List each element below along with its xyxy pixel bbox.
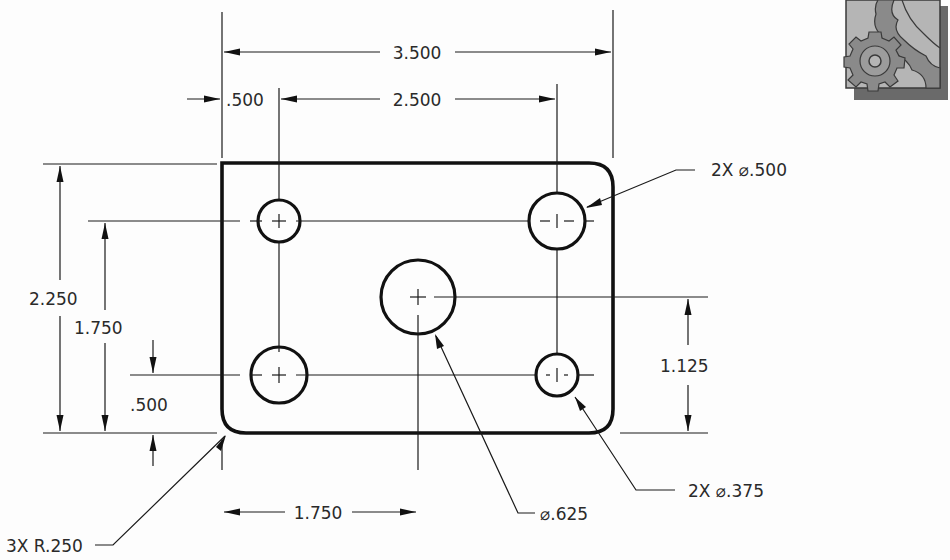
leader-lines	[95, 170, 695, 545]
gear-logo-icon	[826, 0, 950, 102]
centerlines	[88, 84, 708, 470]
callout-small-holes: 2X ⌀.375	[688, 481, 764, 501]
part-drawing-svg: 3.500 2.500 .500 2.250 1.750 .500 1.125 …	[0, 0, 950, 560]
callout-center-hole: ⌀.625	[540, 504, 588, 524]
arrowheads	[57, 49, 692, 516]
dim-overall-height: 2.250	[29, 289, 78, 309]
dim-center-hole-y: 1.125	[660, 356, 709, 376]
callout-large-holes: 2X ⌀.500	[711, 160, 787, 180]
callout-corner-radius: 3X R.250	[6, 536, 83, 556]
dim-hole-spacing-y: 1.750	[74, 318, 123, 338]
dim-center-hole-x: 1.750	[294, 503, 343, 523]
technical-drawing: 3.500 2.500 .500 2.250 1.750 .500 1.125 …	[0, 0, 950, 560]
dim-left-hole-offset: .500	[226, 90, 264, 110]
leader-arrowheads	[216, 198, 602, 451]
dim-overall-width: 3.500	[393, 43, 442, 63]
dim-hole-spacing-x: 2.500	[393, 90, 442, 110]
dim-bottom-hole-offset: .500	[130, 395, 168, 415]
